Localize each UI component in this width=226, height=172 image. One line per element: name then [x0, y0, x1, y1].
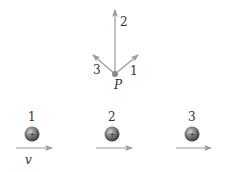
charge-3-label: 3 [188, 111, 196, 123]
field-arrow-1-label: 1 [130, 65, 138, 77]
velocity-label: v [25, 154, 32, 166]
diagram-canvas: + + + [0, 0, 226, 172]
charge-2-label: 2 [108, 111, 116, 123]
charge-1: + [16, 127, 52, 149]
charge-3: + [176, 127, 211, 149]
svg-text:+: + [189, 130, 196, 139]
svg-text:+: + [29, 130, 36, 139]
svg-text:+: + [109, 130, 116, 139]
point-p-dot [112, 71, 118, 77]
field-arrow-3-label: 3 [93, 64, 101, 76]
field-arrow-2-label: 2 [120, 16, 128, 28]
charge-1-label: 1 [28, 111, 36, 123]
point-p-label: P [114, 79, 122, 91]
charge-2: + [96, 127, 132, 149]
